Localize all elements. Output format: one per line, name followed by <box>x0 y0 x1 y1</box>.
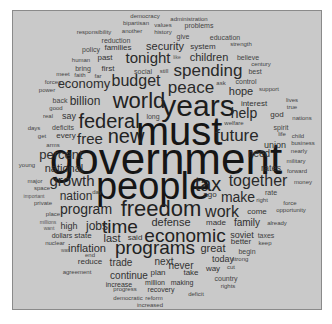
cloud-word: continue <box>110 271 148 281</box>
cloud-word: national <box>45 163 84 174</box>
cloud-word: budget <box>112 73 161 89</box>
cloud-word: deficits <box>52 124 74 131</box>
cloud-word: give <box>177 33 190 40</box>
cloud-word: values <box>154 22 171 28</box>
cloud-word: taxes <box>258 232 275 239</box>
cloud-word: defense <box>151 217 190 228</box>
cloud-word: democracy <box>130 13 159 19</box>
cloud-word: said <box>128 234 143 242</box>
cloud-word: better <box>231 238 251 246</box>
cloud-word: hope <box>229 86 253 97</box>
word-cloud-panel: governmentmustpeopleyearsworldfreedomnew… <box>12 10 322 310</box>
cloud-word: bring <box>75 65 91 72</box>
cloud-word: spending <box>173 62 242 79</box>
cloud-word: force <box>283 200 296 206</box>
cloud-word: nearly <box>291 148 307 154</box>
cloud-word: meet <box>56 71 69 77</box>
cloud-word: right <box>256 197 268 203</box>
cloud-word: family <box>234 218 260 228</box>
cloud-word: recovery <box>148 286 175 293</box>
cloud-word: last <box>103 233 120 244</box>
cloud-word: want <box>44 226 55 231</box>
cloud-word: dollars <box>52 232 73 239</box>
cloud-word: take <box>183 269 198 277</box>
cloud-word: state <box>74 232 91 240</box>
cloud-word: peace <box>168 79 214 96</box>
cloud-word: program <box>60 202 112 216</box>
cloud-word: plan <box>150 269 165 277</box>
cloud-word: interest <box>241 100 267 108</box>
cloud-word: say <box>62 112 76 121</box>
cloud-word: tonight <box>125 50 170 65</box>
cloud-word: control <box>235 78 256 85</box>
cloud-word: rights <box>221 283 236 289</box>
cloud-word: agreement <box>63 269 92 275</box>
cloud-word: help <box>231 106 257 120</box>
cloud-word: begin <box>238 248 255 255</box>
cloud-word: back <box>53 97 68 104</box>
cloud-word: education <box>210 34 240 41</box>
cloud-word: economy <box>58 77 111 90</box>
cloud-word: military <box>287 158 306 164</box>
cloud-word: responsibility <box>77 29 112 35</box>
cloud-word: high <box>60 222 77 231</box>
cloud-word: money <box>294 179 312 185</box>
cloud-word: rate <box>265 189 277 196</box>
cloud-word: come <box>247 208 267 216</box>
cloud-word: place <box>46 211 60 217</box>
cloud-word: way <box>206 265 220 273</box>
cloud-word: far <box>94 73 101 79</box>
cloud-word: god <box>270 111 283 119</box>
cloud-word: century <box>251 61 271 67</box>
cloud-word: support <box>259 86 279 92</box>
cloud-word: child <box>292 133 304 139</box>
cloud-word: already <box>267 220 287 226</box>
cloud-word: past <box>97 54 112 62</box>
cloud-word: security <box>146 41 184 52</box>
cloud-word: ago <box>203 191 216 199</box>
cloud-word: long <box>146 113 159 120</box>
cloud-word: made <box>206 219 226 227</box>
cloud-word: lives <box>286 97 298 103</box>
cloud-word: life <box>278 131 286 137</box>
cloud-word: problems <box>185 22 214 29</box>
cloud-word: percent <box>39 148 82 161</box>
cloud-word: first <box>102 65 115 73</box>
cloud-word: federal <box>78 111 139 131</box>
cloud-word: get <box>38 133 46 139</box>
cloud-word: country <box>215 275 238 282</box>
cloud-word: war <box>61 248 69 253</box>
cloud-word: end <box>85 252 95 258</box>
cloud-word: cut <box>227 264 235 270</box>
cloud-word: space <box>34 185 50 191</box>
cloud-word: human <box>72 57 90 63</box>
cloud-word: social <box>134 68 152 75</box>
cloud-word: billion <box>70 95 101 107</box>
cloud-word: business <box>291 140 315 146</box>
cloud-word: day <box>92 189 102 195</box>
cloud-word: rates <box>261 164 281 173</box>
cloud-word: future <box>215 127 258 144</box>
cloud-word: trade <box>110 258 133 268</box>
cloud-word: important <box>24 194 45 199</box>
cloud-word: real <box>43 113 53 119</box>
cloud-word: opportunity <box>276 207 306 213</box>
cloud-word: free <box>77 131 103 146</box>
cloud-word: strong <box>232 256 249 262</box>
cloud-word: million <box>145 279 165 286</box>
cloud-word: world <box>113 90 166 112</box>
cloud-word: reduce <box>78 258 102 266</box>
cloud-word: nuclear <box>45 240 65 246</box>
cloud-word: young <box>19 162 35 168</box>
cloud-word: keep <box>258 240 271 246</box>
cloud-word: children <box>190 52 229 63</box>
cloud-word: forward <box>287 168 307 174</box>
cloud-word: forces <box>45 79 61 85</box>
cloud-word: system <box>190 43 215 51</box>
cloud-word: arms <box>46 142 59 148</box>
cloud-word: reform <box>145 295 162 301</box>
cloud-word: progress <box>113 286 136 292</box>
cloud-word: good <box>49 105 62 111</box>
cloud-word: growth <box>49 173 94 188</box>
cloud-word: every <box>56 132 76 140</box>
